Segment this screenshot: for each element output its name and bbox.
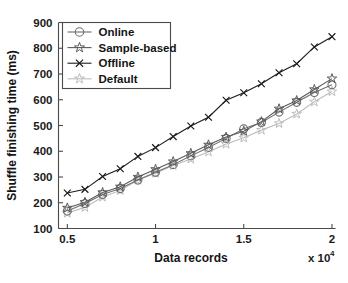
y-tick-label: 400 [33, 145, 52, 157]
x-tick-label: 0.5 [59, 233, 76, 245]
x-tick-label: 2 [329, 233, 335, 245]
y-tick-label: 900 [33, 17, 52, 29]
legend-label: Sample-based [99, 42, 177, 54]
x-axis-multiplier: x 10 [308, 252, 330, 264]
legend-label: Online [99, 26, 135, 38]
y-tick-label: 300 [33, 171, 52, 183]
y-tick-label: 200 [33, 197, 52, 209]
x-axis-multiplier-exponent: 4 [330, 249, 335, 258]
chart-figure: 100200300400500600700800900 0.511.52 Onl… [0, 0, 348, 283]
y-tick-label: 500 [33, 120, 52, 132]
y-tick-label: 600 [33, 94, 52, 106]
y-tick-label: 100 [33, 223, 52, 235]
legend-label: Offline [99, 57, 135, 69]
y-tick-label: 800 [33, 42, 52, 54]
legend-label: Default [99, 73, 138, 85]
x-tick-label: 1.5 [236, 233, 253, 245]
y-tick-label: 700 [33, 68, 52, 80]
x-tick-label: 1 [152, 233, 159, 245]
x-axis-title: Data records [154, 251, 228, 265]
shuffle-finishing-time-line-chart: 100200300400500600700800900 0.511.52 Onl… [0, 0, 348, 283]
y-axis-title: Shuffle finishing time (ms) [5, 50, 19, 201]
chart-legend[interactable]: OnlineSample-basedOfflineDefault [63, 23, 177, 89]
